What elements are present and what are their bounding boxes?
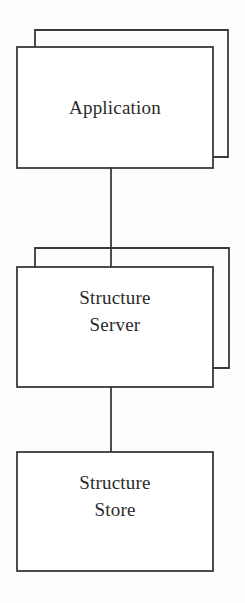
node-label-application: Application xyxy=(17,94,213,121)
node-label-structure-store: Structure Store xyxy=(17,469,213,523)
block-diagram: Application Structure Server Structure S… xyxy=(0,0,245,603)
node-label-structure-server: Structure Server xyxy=(17,284,213,338)
